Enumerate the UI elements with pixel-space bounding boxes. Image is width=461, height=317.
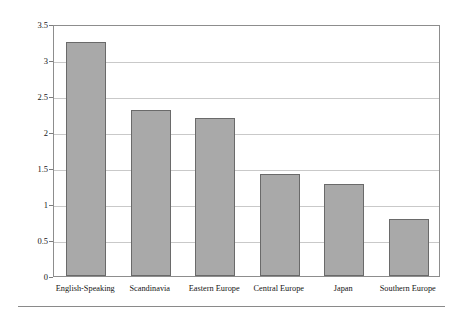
gridline [54,170,439,171]
y-axis-tick-label: 1 [24,201,48,210]
y-axis-tick-label: 0 [24,273,48,282]
plot-area [53,25,440,277]
bar [195,118,235,276]
bar [66,42,106,276]
gridline [54,62,439,63]
gridline [54,134,439,135]
x-axis-tick-label: Southern Europe [358,283,458,294]
y-axis-tick-label: 3 [24,57,48,66]
bottom-divider-rule [18,306,445,307]
y-axis-tick-label: 2 [24,129,48,138]
gridline [54,206,439,207]
gridline [54,98,439,99]
bar [324,184,364,276]
bar [389,219,429,276]
bar [260,174,300,276]
gridline [54,242,439,243]
figure: Divorce Per 1000 Population 3.532.521.51… [0,0,461,317]
y-axis-tick-label: 1.5 [24,165,48,174]
y-axis-tick-label: 0.5 [24,237,48,246]
y-axis-tick-label: 2.5 [24,93,48,102]
y-axis-tick-mark [49,277,53,278]
bar [131,110,171,276]
y-axis-tick-label: 3.5 [24,21,48,30]
